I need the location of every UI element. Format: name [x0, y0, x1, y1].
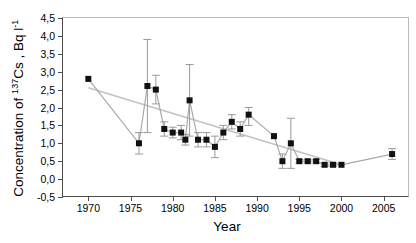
y-axis-tick-label: 1,0 — [40, 137, 55, 149]
y-axis-tick-label: 0,5 — [40, 155, 55, 167]
y-axis-title-mid: Cs , Bq l — [11, 28, 26, 79]
data-point-marker — [85, 76, 91, 82]
y-axis-title: Concentration of 137Cs , Bq l-1 — [10, 13, 27, 203]
data-point-marker — [136, 140, 142, 146]
chart-root: Concentration of 137Cs , Bq l-1 Year -0,… — [0, 0, 416, 243]
data-point-marker — [182, 137, 188, 143]
data-point-marker — [144, 83, 150, 89]
y-axis-tick-label: 2,0 — [40, 102, 55, 114]
data-point-marker — [153, 87, 159, 93]
data-point-marker — [187, 97, 193, 103]
data-point-marker — [330, 162, 336, 168]
data-point-marker — [305, 158, 311, 164]
data-point-marker — [279, 158, 285, 164]
x-axis-tick-label: 1975 — [119, 202, 142, 214]
y-axis-tick-label: 4,5 — [40, 12, 55, 24]
x-axis-title: Year — [0, 219, 416, 234]
x-axis-tick-label: 2000 — [330, 202, 353, 214]
data-point-marker — [178, 130, 184, 136]
y-axis-title-superscript-exp: -1 — [10, 20, 20, 28]
x-axis-tick-label: 2005 — [372, 202, 395, 214]
y-axis-tick-label: 4,0 — [40, 30, 55, 42]
data-point-marker — [296, 158, 302, 164]
y-axis-title-superscript-137: 137 — [10, 79, 20, 94]
plot-inner: -0,50,00,51,01,52,02,53,03,54,04,5 19701… — [63, 18, 408, 196]
data-point-marker — [313, 158, 319, 164]
data-point-marker — [161, 126, 167, 132]
chart-graphics — [63, 18, 410, 198]
data-point-marker — [170, 130, 176, 136]
data-point-marker — [212, 144, 218, 150]
y-axis-title-lead: Concentration of — [11, 94, 26, 197]
data-point-marker — [195, 137, 201, 143]
data-point-marker — [246, 112, 252, 118]
data-point-marker — [322, 162, 328, 168]
data-point-marker — [288, 140, 294, 146]
data-point-marker — [271, 133, 277, 139]
data-point-marker — [229, 119, 235, 125]
x-axis-tick-label: 1970 — [77, 202, 100, 214]
y-axis-tick-label: 3,0 — [40, 66, 55, 78]
data-point-marker — [203, 137, 209, 143]
y-axis-tick-label: -0,5 — [37, 191, 55, 203]
x-axis-tick-label: 1995 — [288, 202, 311, 214]
x-axis-tick-label: 1990 — [245, 202, 268, 214]
y-axis-tick-label: 0,0 — [40, 173, 55, 185]
x-axis-tick-label: 1985 — [203, 202, 226, 214]
y-axis-tick-label: 1,5 — [40, 119, 55, 131]
data-point-marker — [220, 130, 226, 136]
plot-area: -0,50,00,51,01,52,02,53,03,54,04,5 19701… — [62, 17, 409, 197]
data-point-marker — [237, 126, 243, 132]
data-point-marker — [338, 162, 344, 168]
data-point-marker — [389, 151, 395, 157]
y-axis-tick-label: 3,5 — [40, 48, 55, 60]
x-axis-tick-label: 1980 — [161, 202, 184, 214]
error-bars-group — [135, 39, 396, 168]
y-axis-tick-label: 2,5 — [40, 84, 55, 96]
